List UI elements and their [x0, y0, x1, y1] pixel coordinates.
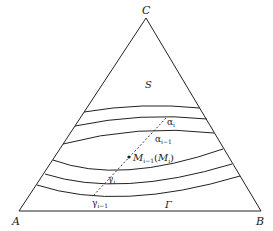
label-point-m: Mi−1(Mi) — [132, 152, 174, 164]
region-label-gamma: Γ — [164, 199, 173, 210]
curve-alpha-i — [75, 117, 207, 126]
label-gamma-i-minus-1: γi−1 — [92, 198, 108, 209]
vertex-label-b: B — [255, 215, 264, 228]
region-label-s: S — [145, 79, 152, 90]
curve-gamma-i — [45, 164, 232, 184]
curve-1 — [84, 106, 200, 112]
label-gamma-i: γi — [108, 174, 115, 185]
point-m — [127, 155, 130, 158]
label-alpha-i: αi — [167, 117, 175, 128]
vertex-label-a: A — [11, 215, 20, 228]
curve-alpha-i-minus-1 — [63, 130, 214, 144]
label-alpha-i-minus-1: αi−1 — [155, 134, 172, 145]
ternary-diagram: C A B S Γ αi αi−1 Mi−1(Mi) γi γi−1 — [0, 0, 273, 231]
curve-gamma-i-minus-1 — [37, 176, 240, 197]
vertex-label-c: C — [142, 4, 151, 17]
triangle-abc — [19, 18, 261, 211]
